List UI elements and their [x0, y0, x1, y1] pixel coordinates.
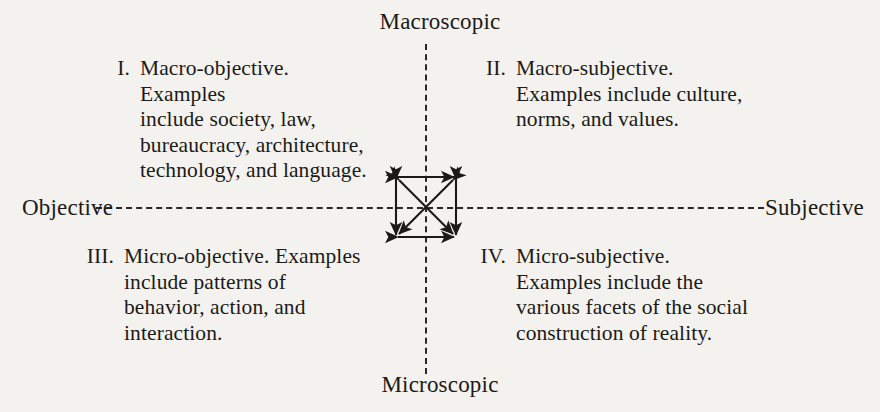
axis-label-objective: Objective — [22, 196, 113, 219]
quadrant-3-line-2: include patterns of — [124, 270, 286, 294]
quadrant-3-line-1: Micro-objective. Examples — [124, 244, 361, 268]
quadrant-4-line-3: various facets of the social — [516, 295, 748, 319]
quadrant-4-line-2: Examples include the — [516, 270, 703, 294]
quadrant-1: I. Macro-objective. Examples include soc… — [82, 56, 372, 184]
quadrant-1-line-3: bureaucracy, architecture, — [140, 133, 364, 157]
quadrant-1-line-4: technology, and language. — [140, 158, 367, 182]
center-arrow-square — [383, 164, 469, 250]
axis-label-macroscopic: Macroscopic — [0, 10, 880, 33]
quadrant-2: II. Macro-subjective. Examples include c… — [466, 56, 766, 133]
quadrant-1-line-2: include society, law, — [140, 107, 316, 131]
quadrant-3-line-3: behavior, action, and — [124, 295, 306, 319]
quadrant-4-line-1: Micro-subjective. — [516, 244, 670, 268]
bidirectional-arrow-square-icon — [383, 164, 469, 250]
quadrant-4-line-4: construction of reality. — [516, 321, 712, 345]
quadrant-1-numeral: I. — [82, 56, 140, 82]
axis-label-subjective: Subjective — [765, 196, 864, 219]
quadrant-4-text: Micro-subjective. Examples include the v… — [516, 244, 766, 346]
quadrant-3-line-4: interaction. — [124, 321, 223, 345]
quadrant-1-text: Macro-objective. Examples include societ… — [140, 56, 372, 184]
quadrant-2-numeral: II. — [466, 56, 516, 82]
quadrant-3-numeral: III. — [66, 244, 124, 270]
quadrant-1-line-1: Macro-objective. Examples — [140, 56, 289, 106]
quadrant-2-text: Macro-subjective. Examples include cultu… — [516, 56, 766, 133]
quadrant-4: IV. Micro-subjective. Examples include t… — [466, 244, 766, 346]
quadrant-2-line-1: Macro-subjective. — [516, 56, 674, 80]
quadrant-diagram: Macroscopic Microscopic Objective Subjec… — [0, 0, 880, 412]
quadrant-2-line-2: Examples include culture, — [516, 82, 742, 106]
quadrant-3-text: Micro-objective. Examples include patter… — [124, 244, 372, 346]
quadrant-3: III. Micro-objective. Examples include p… — [66, 244, 372, 346]
axis-label-microscopic: Microscopic — [0, 373, 880, 396]
quadrant-2-line-3: norms, and values. — [516, 107, 679, 131]
quadrant-4-numeral: IV. — [466, 244, 516, 270]
